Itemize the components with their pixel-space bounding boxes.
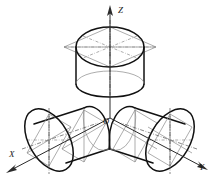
cylinder-on-frontal-plane bbox=[109, 101, 204, 180]
isometric-cylinders-diagram: Z X Y O bbox=[0, 0, 213, 190]
x-axis-arrowhead bbox=[6, 164, 17, 173]
cylinder-on-profile-plane bbox=[15, 101, 110, 180]
z-axis-label: Z bbox=[118, 5, 124, 15]
origin-label: O bbox=[103, 116, 109, 126]
drawing-canvas: Z X Y O bbox=[0, 0, 213, 190]
x-axis bbox=[6, 118, 110, 173]
x-axis-label: X bbox=[8, 149, 15, 159]
y-axis bbox=[110, 118, 208, 170]
z-axis bbox=[107, 5, 113, 118]
